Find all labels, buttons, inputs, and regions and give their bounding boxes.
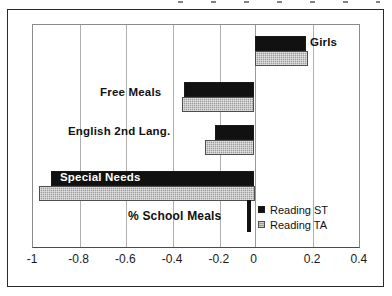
xtick-label-0.2: 0.2: [304, 252, 321, 266]
axis-annotation-school-meals: % School Meals: [128, 209, 222, 223]
xtick-label--1: -1: [27, 252, 38, 266]
xtick-label--0.2: -0.2: [208, 252, 229, 266]
category-label-free-meals: Free Meals: [100, 86, 161, 98]
legend-swatch-gray-square-icon: [258, 221, 265, 228]
xtick-label--0.8: -0.8: [68, 252, 89, 266]
category-label-english-2nd-lang: English 2nd Lang.: [68, 125, 170, 137]
legend-label-reading-ta: Reading TA: [270, 219, 327, 231]
bar-girls-reading-st: [255, 36, 307, 51]
bar-girls-reading-ta: [255, 51, 309, 66]
bar-english-2nd-lang-reading-st: [215, 125, 255, 140]
xtick-label--0.6: -0.6: [115, 252, 136, 266]
legend-label-reading-st: Reading ST: [270, 204, 328, 216]
xtick-label--0.4: -0.4: [162, 252, 183, 266]
bar-free-meals-reading-ta: [182, 97, 255, 112]
category-label-special-needs: Special Needs: [60, 171, 141, 183]
legend: Reading ST Reading TA: [258, 202, 328, 232]
bar-chart: Girls Free Meals English 2nd Lang. Speci…: [0, 0, 392, 296]
legend-item-reading-ta: Reading TA: [258, 217, 328, 232]
category-label-girls: Girls: [310, 36, 337, 48]
bar-special-needs-reading-ta: [39, 186, 255, 201]
legend-item-reading-st: Reading ST: [258, 202, 328, 217]
xtick-label-0.4: 0.4: [351, 252, 368, 266]
xtick-label-0: 0: [250, 252, 257, 266]
bar-free-meals-reading-st: [184, 82, 254, 97]
legend-divider: [247, 200, 251, 232]
legend-swatch-black-square-icon: [258, 206, 265, 213]
bar-english-2nd-lang-reading-ta: [205, 140, 254, 155]
